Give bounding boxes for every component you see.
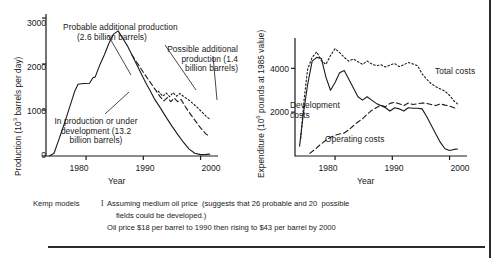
production-x-axis-label: Year (108, 176, 125, 186)
annotation-leader-line (105, 92, 129, 114)
figure-oil-production-and-expenditure: Production (103 barrels per day) Year 30… (0, 0, 491, 258)
expenditure-xtick-1980: 1980 (311, 163, 345, 173)
production-xtick-1980: 1980 (62, 163, 96, 173)
label-total-costs: Total costs (435, 67, 475, 77)
annotation-in-production-or-under-development: In production or under development (13.2… (40, 117, 152, 146)
expenditure-ytick-2000: 2000 (259, 107, 289, 117)
expenditure-ytick-4000: 4000 (259, 64, 289, 74)
expenditure-xtick-1990: 1990 (377, 163, 411, 173)
expenditure-svg (245, 0, 491, 190)
page-bottom-rule (48, 246, 485, 248)
caption-line-2: fields could be developed.) (116, 211, 206, 222)
expenditure-xtick-2000: 2000 (443, 163, 477, 173)
expenditure-y-axis-label: Expenditure (106 pounds at 1985 value) (255, 30, 266, 178)
production-ytick-0: 0 (18, 150, 46, 160)
annotation-probable-additional-production: Probable additional production (2.6 bill… (63, 23, 178, 42)
caption-line-1: Assuming medium oil price (suggests that… (107, 199, 349, 210)
chart-panel-expenditure: Expenditure (106 pounds at 1985 value) Y… (245, 0, 491, 190)
production-xtick-2000: 2000 (194, 163, 228, 173)
production-ytick-2000: 2000 (18, 62, 46, 72)
chart-panel-production: Production (103 barrels per day) Year 30… (0, 0, 246, 190)
production-ytick-3000: 3000 (18, 18, 46, 28)
production-xtick-1990: 1990 (128, 163, 162, 173)
caption-line-3: Oil price $18 per barrel to 1990 then ri… (107, 223, 336, 234)
label-operating-costs: Operating costs (325, 135, 384, 145)
series-possible-additional-production (158, 91, 210, 119)
series-total-costs (301, 49, 458, 139)
expenditure-x-axis-label: Year (357, 176, 374, 186)
production-ytick-1000: 1000 (18, 106, 46, 116)
label-development-costs: Development costs (290, 101, 340, 120)
annotation-possible-additional-production: Possible additional production (1.4 bill… (118, 45, 238, 74)
caption-roman-numeral: I (101, 199, 104, 208)
expenditure-plot-area (245, 0, 491, 190)
caption-model-label: Kemp models (33, 199, 79, 208)
